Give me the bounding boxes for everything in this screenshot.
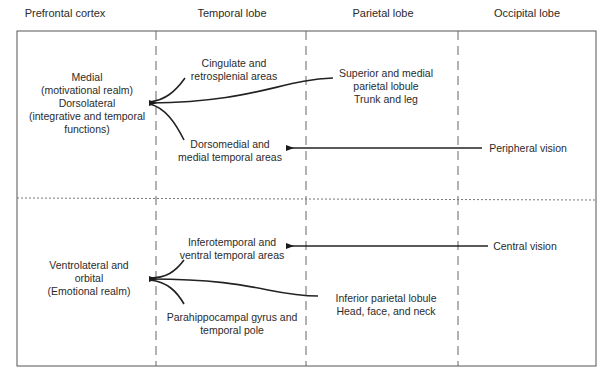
label-line: (Emotional realm) xyxy=(48,285,131,298)
label-line: Trunk and leg xyxy=(339,93,433,106)
label-inferior-parietal: Inferior parietal lobule Head, face, and… xyxy=(336,292,437,318)
label-ventrolateral: Ventrolateral and orbital (Emotional rea… xyxy=(48,259,131,298)
label-line: medial temporal areas xyxy=(178,151,282,164)
arrow-inferior-parietal-to-ventrolateral xyxy=(150,279,318,296)
label-line: Ventrolateral and xyxy=(48,259,131,272)
label-line: Inferotemporal and xyxy=(180,236,284,249)
label-medial-dorsolateral: Medial (motivational realm) Dorsolateral… xyxy=(29,71,145,136)
label-line: temporal pole xyxy=(167,324,298,337)
label-line: (motivational realm) xyxy=(29,84,145,97)
label-dorsomedial: Dorsomedial and medial temporal areas xyxy=(178,138,282,164)
label-central-vision: Central vision xyxy=(493,240,557,253)
label-line: Parahippocampal gyrus and xyxy=(167,311,298,324)
label-line: orbital xyxy=(48,272,131,285)
diagram-canvas xyxy=(0,0,606,376)
label-line: Head, face, and neck xyxy=(336,305,437,318)
arrow-cingulate-to-dorsolateral xyxy=(150,78,185,102)
arrow-dorsomedial-to-dorsolateral xyxy=(150,104,184,140)
label-line: functions) xyxy=(29,123,145,136)
arrow-inferotemporal-to-ventrolateral xyxy=(150,260,184,278)
label-line: Cingulate and xyxy=(191,57,277,70)
label-line: retrosplenial areas xyxy=(191,70,277,83)
label-line: Superior and medial xyxy=(339,67,433,80)
label-line: Central vision xyxy=(493,240,557,253)
label-line: Dorsomedial and xyxy=(178,138,282,151)
label-line: (integrative and temporal xyxy=(29,110,145,123)
label-line: Peripheral vision xyxy=(489,142,567,155)
label-line: Medial xyxy=(29,71,145,84)
label-line: Dorsolateral xyxy=(29,97,145,110)
label-inferotemporal: Inferotemporal and ventral temporal area… xyxy=(180,236,284,262)
label-line: parietal lobule xyxy=(339,80,433,93)
label-line: Inferior parietal lobule xyxy=(336,292,437,305)
label-parahippocampal: Parahippocampal gyrus and temporal pole xyxy=(167,311,298,337)
label-cingulate: Cingulate and retrosplenial areas xyxy=(191,57,277,83)
arrow-parahippocampal-to-ventrolateral xyxy=(150,280,184,304)
column-header-prefrontal: Prefrontal cortex xyxy=(25,7,106,19)
label-superior-parietal: Superior and medial parietal lobule Trun… xyxy=(339,67,433,106)
label-peripheral-vision: Peripheral vision xyxy=(489,142,567,155)
column-header-occipital: Occipital lobe xyxy=(494,7,560,19)
label-line: ventral temporal areas xyxy=(180,249,284,262)
column-header-temporal: Temporal lobe xyxy=(197,7,266,19)
column-header-parietal: Parietal lobe xyxy=(352,7,413,19)
